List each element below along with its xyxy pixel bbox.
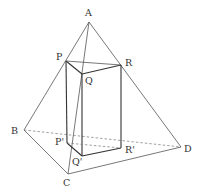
edge-Q2R2 [82, 148, 121, 156]
geometry-diagram: A B C D P Q R P' Q' R' [0, 0, 199, 190]
edge-P2Q2 [67, 143, 82, 156]
edge-PP2 [66, 61, 67, 143]
edge-AB [24, 22, 89, 130]
edge-PQ [66, 61, 82, 74]
edge-BD-hidden [24, 130, 181, 147]
label-D: D [184, 143, 192, 154]
edge-PR [66, 61, 121, 65]
edge-QR [82, 65, 121, 74]
label-P-prime: P' [55, 136, 64, 147]
label-Q-prime: Q' [72, 156, 82, 167]
label-B: B [11, 125, 18, 136]
label-Q: Q [85, 75, 93, 86]
edge-AD [89, 22, 181, 147]
label-C: C [63, 177, 70, 188]
label-R: R [125, 57, 133, 68]
label-A: A [84, 7, 92, 18]
edge-P2R2-hidden [67, 143, 121, 148]
label-P: P [56, 51, 63, 62]
edge-AC [68, 22, 89, 174]
label-R-prime: R' [125, 144, 135, 155]
